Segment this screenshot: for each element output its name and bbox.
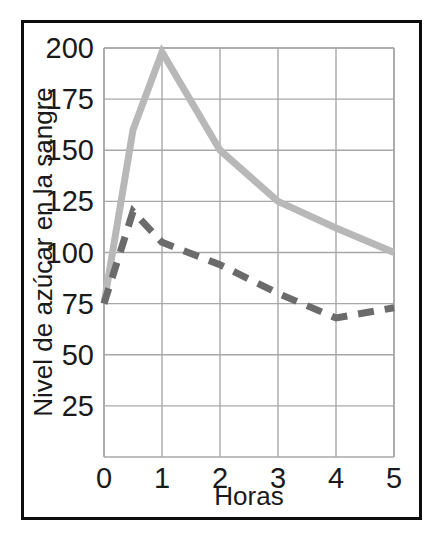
line-chart: 255075100125150175200 012345 Horas Nivel… (0, 0, 445, 554)
y-tick-label: 200 (46, 32, 94, 64)
figure: 255075100125150175200 012345 Horas Nivel… (0, 0, 445, 554)
y-tick-label: 50 (62, 339, 94, 371)
y-tick-label: 75 (62, 288, 94, 320)
x-tick-label: 0 (96, 462, 112, 494)
x-tick-label: 5 (386, 462, 402, 494)
x-tick-label: 1 (154, 462, 170, 494)
y-tick-label: 25 (62, 390, 94, 422)
x-axis-title: Horas (214, 481, 283, 511)
y-axis-title: Nivel de azúcar en la sangre (28, 87, 58, 417)
x-tick-label: 4 (328, 462, 344, 494)
